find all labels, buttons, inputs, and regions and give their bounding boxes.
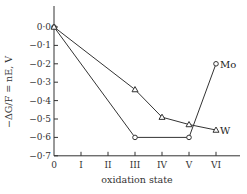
y-tick-label: −0·4 xyxy=(29,96,51,106)
series-mo: Mo xyxy=(52,25,237,140)
x-tick-label: I xyxy=(79,160,83,170)
axes xyxy=(54,6,240,156)
series-group: MoW xyxy=(51,24,236,140)
y-tick-label: −0·6 xyxy=(29,132,51,142)
circle-marker xyxy=(187,135,192,140)
y-tick-label: −0·1 xyxy=(29,40,51,50)
series-w: W xyxy=(51,24,231,136)
x-axis-ticks: 0IIIIIIIVVVI xyxy=(51,152,221,170)
x-tick-label: V xyxy=(185,160,193,170)
x-tick-label: 0 xyxy=(51,160,57,170)
circle-marker xyxy=(214,62,219,67)
x-tick-label: II xyxy=(104,160,112,170)
x-tick-label: IV xyxy=(157,160,168,170)
y-tick-label: −0·7 xyxy=(29,151,51,161)
x-tick-label: III xyxy=(130,160,141,170)
y-tick-label: −0·2 xyxy=(29,59,51,69)
series-label: W xyxy=(220,125,231,136)
frost-diagram-chart: 0·0−0·1−0·2−0·3−0·4−0·5−0·6−0·7 0IIIIIII… xyxy=(0,0,247,194)
circle-marker xyxy=(133,135,138,140)
y-tick-label: 0·0 xyxy=(37,22,52,32)
x-axis-title: oxidation state xyxy=(101,174,173,185)
x-tick-label: VI xyxy=(210,160,221,170)
y-tick-label: −0·3 xyxy=(29,77,51,87)
y-tick-label: −0·5 xyxy=(29,114,51,124)
y-axis-title: −ΔG/F = nE, V xyxy=(3,56,14,128)
series-label: Mo xyxy=(220,59,236,70)
